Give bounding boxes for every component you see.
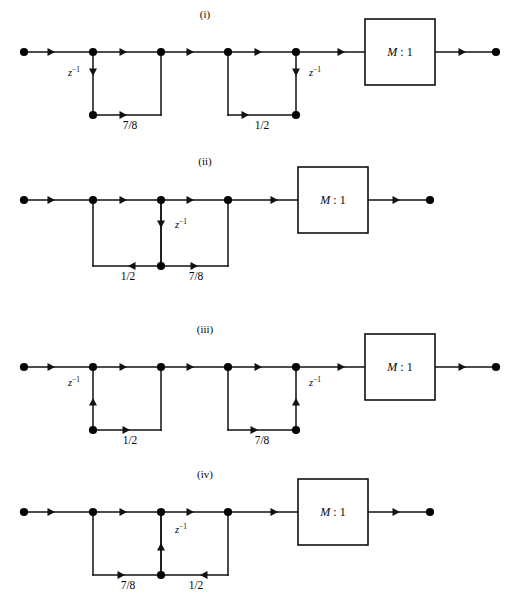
delay-exponent: −1: [179, 217, 187, 226]
section-iv-1-delay-label: z−1: [174, 522, 187, 535]
decimator-ratio: 1: [407, 45, 413, 59]
panel-i-rail-arrow-0: [48, 48, 56, 56]
panel-ii-rail-arrow-0: [48, 196, 56, 204]
section-iii-1-bottom-node: [89, 426, 97, 434]
decimator-ratio: 1: [407, 360, 413, 374]
section-i-1-bottom-node: [89, 111, 97, 119]
panel-iii-input-terminal: [20, 363, 28, 371]
signal-flow-diagram: (i)M : 1z−17/8z−11/2(ii)M : 1z−11/27/8(i…: [0, 0, 511, 609]
section-iii-1-delay-label: z−1: [67, 375, 80, 388]
panel-ii-rail-arrow-1: [120, 196, 128, 204]
panel-ii-main-node-0: [89, 196, 97, 204]
section-ii-2-bottom-arrow: [191, 262, 199, 270]
panel-ii: (ii)M : 1z−11/27/8: [20, 155, 434, 282]
panel-iii-output-terminal: [492, 363, 500, 371]
panel-i: (i)M : 1z−17/8z−11/2: [20, 8, 500, 131]
section-i-2-delay-arrow: [292, 69, 300, 77]
panel-ii-rail-arrow-3: [271, 196, 279, 204]
section-iii-1-gain-label: 1/2: [123, 434, 138, 446]
panel-ii-input-terminal: [20, 196, 28, 204]
panel-ii-main-node-1: [157, 196, 165, 204]
section-ii-1-bottom-node: [157, 262, 165, 270]
panel-ii-rail-arrow-2: [187, 196, 195, 204]
decimator-separator: :: [397, 45, 406, 59]
decimator-separator: :: [330, 505, 339, 519]
panel-iv-rail-arrow-4: [393, 508, 401, 516]
panel-iii-rail-arrow-1: [120, 363, 128, 371]
panel-iii-decimator-label: M : 1: [386, 360, 412, 374]
panel-iv: (iv)M : 1z−17/81/2: [20, 468, 434, 591]
panel-iv-main-node-0: [89, 508, 97, 516]
section-iv-1-bottom-arrow: [118, 571, 126, 579]
panel-iv-main-node-1: [157, 508, 165, 516]
panel-iii-main-node-1: [157, 363, 165, 371]
section-i-2-bottom-arrow: [242, 111, 250, 119]
section-i-2-gain-label: 1/2: [255, 119, 270, 131]
panel-ii-main-node-2: [224, 196, 232, 204]
section-iii-2-bottom-arrow: [251, 426, 259, 434]
section-iii-1-bottom-arrow: [123, 426, 131, 434]
panel-iii-rail-arrow-2: [187, 363, 195, 371]
section-iii-2-delay-label: z−1: [308, 375, 321, 388]
panel-ii-output-terminal: [426, 196, 434, 204]
panel-i-main-node-1: [157, 48, 165, 56]
panel-i-decimator-label: M : 1: [386, 45, 412, 59]
panel-iii-main-node-0: [89, 363, 97, 371]
delay-exponent: −1: [179, 522, 187, 531]
panel-i-rail-arrow-5: [459, 48, 467, 56]
panel-iv-rail-arrow-0: [48, 508, 56, 516]
decimator-separator: :: [397, 360, 406, 374]
panel-iv-rail-arrow-3: [271, 508, 279, 516]
panel-i-input-terminal: [20, 48, 28, 56]
section-ii-1-gain-label: 1/2: [121, 270, 136, 282]
panel-i-rail-arrow-4: [338, 48, 346, 56]
panel-i-main-node-3: [292, 48, 300, 56]
panel-iii-rail-arrow-4: [338, 363, 346, 371]
delay-exponent: −1: [313, 375, 321, 384]
panel-i-rail-arrow-2: [187, 48, 195, 56]
section-iii-2-delay-arrow: [292, 398, 300, 406]
panel-iii-caption: (iii): [197, 323, 214, 336]
decimator-separator: :: [330, 193, 339, 207]
panel-iii-rail-arrow-3: [255, 363, 263, 371]
section-i-1-delay-label: z−1: [67, 65, 80, 78]
figure-root: (i)M : 1z−17/8z−11/2(ii)M : 1z−11/27/8(i…: [0, 0, 511, 609]
section-iii-2-bottom-node: [292, 426, 300, 434]
delay-exponent: −1: [72, 375, 80, 384]
panel-i-caption: (i): [200, 8, 211, 21]
section-iv-1-bottom-node: [157, 571, 165, 579]
section-iv-2-gain-label: 1/2: [189, 579, 204, 591]
panel-i-rail-arrow-1: [120, 48, 128, 56]
panel-iv-input-terminal: [20, 508, 28, 516]
section-iv-2-bottom-arrow: [200, 571, 208, 579]
section-iii-1-delay-arrow: [89, 398, 97, 406]
panel-ii-rail-arrow-4: [393, 196, 401, 204]
section-iii-2-gain-label: 7/8: [255, 434, 270, 446]
panel-iv-main-node-2: [224, 508, 232, 516]
panel-ii-caption: (ii): [198, 155, 212, 168]
panel-i-rail-arrow-3: [255, 48, 263, 56]
panel-iv-caption: (iv): [197, 468, 213, 481]
panel-iii-main-node-3: [292, 363, 300, 371]
section-i-2-bottom-node: [292, 111, 300, 119]
panel-iv-output-terminal: [426, 508, 434, 516]
panel-i-main-node-2: [224, 48, 232, 56]
section-ii-1-delay-label: z−1: [174, 217, 187, 230]
section-iv-1-gain-label: 7/8: [121, 579, 136, 591]
panel-iii-rail-arrow-0: [48, 363, 56, 371]
delay-exponent: −1: [72, 65, 80, 74]
panel-i-main-node-0: [89, 48, 97, 56]
section-i-2-delay-label: z−1: [308, 65, 321, 78]
section-ii-2-gain-label: 7/8: [189, 270, 204, 282]
section-i-1-bottom-arrow: [120, 111, 128, 119]
section-i-1-gain-label: 7/8: [123, 119, 138, 131]
decimator-ratio: 1: [340, 505, 346, 519]
panel-iv-decimator-label: M : 1: [319, 505, 345, 519]
section-ii-1-bottom-arrow: [128, 262, 136, 270]
panel-iv-rail-arrow-1: [120, 508, 128, 516]
decimator-ratio: 1: [340, 193, 346, 207]
panel-i-output-terminal: [492, 48, 500, 56]
panel-ii-decimator-label: M : 1: [319, 193, 345, 207]
section-i-1-delay-arrow: [89, 69, 97, 77]
panel-iii-main-node-2: [224, 363, 232, 371]
